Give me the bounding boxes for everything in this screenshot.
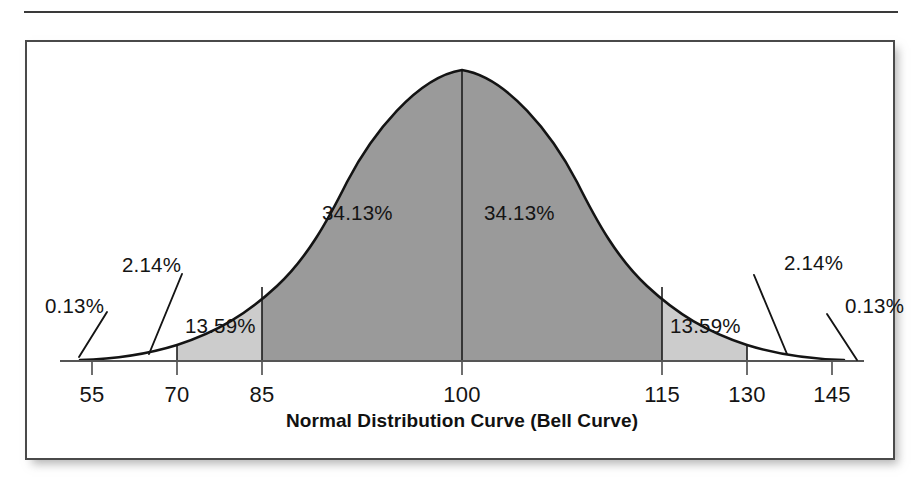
top-horizontal-rule <box>24 11 898 13</box>
leader-line-right-013 <box>827 314 857 360</box>
pct-label-13-59-left: 13.59% <box>185 314 256 338</box>
pct-label-13-59-right: 13.59% <box>670 314 741 338</box>
pct-label-left-214: 2.14% <box>122 253 181 277</box>
tick-label-115: 115 <box>622 382 702 408</box>
figure-page: 0.13% 2.14% 13.59% 34.13% 34.13% 13.59% … <box>0 0 922 491</box>
pct-label-right-214: 2.14% <box>784 251 843 275</box>
leader-line-left-013 <box>79 312 107 357</box>
tick-label-85: 85 <box>222 382 302 408</box>
tick-label-100: 100 <box>422 382 502 408</box>
tick-label-130: 130 <box>707 382 787 408</box>
leader-line-left-214 <box>149 274 182 354</box>
pct-label-right-013: 0.13% <box>845 294 904 318</box>
chart-title: Normal Distribution Curve (Bell Curve) <box>27 410 897 432</box>
x-axis-ticks <box>92 361 832 375</box>
clipped-header-text <box>26 0 726 6</box>
segment-divider-lines <box>177 70 747 361</box>
pct-label-left-013: 0.13% <box>45 294 104 318</box>
tick-label-145: 145 <box>792 382 872 408</box>
figure-frame: 0.13% 2.14% 13.59% 34.13% 34.13% 13.59% … <box>25 40 895 460</box>
tick-label-70: 70 <box>137 382 217 408</box>
leader-line-right-214 <box>754 275 787 354</box>
tick-label-55: 55 <box>52 382 132 408</box>
pct-label-34-13-right: 34.13% <box>484 201 555 225</box>
pct-label-34-13-left: 34.13% <box>322 201 393 225</box>
